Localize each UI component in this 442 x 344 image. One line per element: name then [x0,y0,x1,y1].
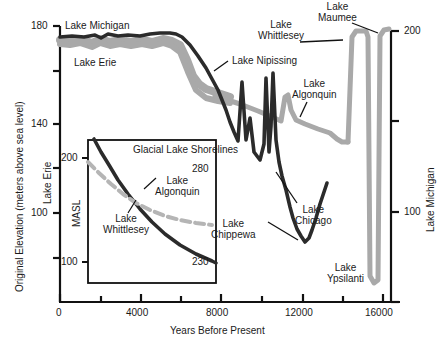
right-axis-tick-200: 200 [404,25,421,36]
left-axis-tick-180: 180 [31,20,48,31]
inset-corner-label-230: 230 [192,256,209,267]
x-axis-tick-16000: 16000 [365,307,393,318]
bottom-axis [59,294,400,302]
y-axis-title-right: Lake Michigan [425,168,436,232]
inset-y-axis-title: MASL [71,200,82,227]
x-axis-title: Years Before Present [170,325,265,336]
x-axis-tick-8000: 8000 [206,307,228,318]
x-axis-tick-4000: 4000 [126,307,148,318]
x-axis-tick-12000: 12000 [285,307,313,318]
inset-corner-label-280: 280 [192,163,209,174]
y-axis-title-left: Original Elevation (meters above sea lev… [14,101,25,292]
chart-canvas [0,0,442,344]
annotation-lake-whittlesey: Lake Whittlesey [258,19,304,41]
figure-glacial-lake-levels: 180 140 100 200 100 0 4000 8000 12000 16… [0,0,442,344]
x-axis-tick-0: 0 [56,307,62,318]
inset-tick-100: 100 [61,256,78,267]
left-axis-tick-100: 100 [31,207,48,218]
annotation-lake-maumee: Lake Maumee [318,1,357,23]
annotation-lake-nipissing: Lake Nipissing [232,55,297,66]
inset-tick-200: 200 [61,152,78,163]
annotation-lake-chicago: Lake Chicago [295,204,332,226]
annotation-lake-erie: Lake Erie [74,57,116,68]
annotation-lake-chippewa: Lake Chippewa [211,218,255,240]
left-axis-tick-140: 140 [31,118,48,129]
y-axis-subtitle-lake-erie: Lake Erie [42,162,53,204]
annotation-lake-michigan: Lake Michigan [65,20,129,31]
inset-title: Glacial Lake Shorelines [133,144,238,155]
annotation-lake-algonquin: Lake Algonquin [292,78,336,100]
inset-annotation-lake-whittlesey: Lake Whittlesey [103,213,149,235]
right-axis-tick-100: 100 [404,206,421,217]
right-axis [391,31,399,302]
left-axis [53,26,60,302]
annotation-lake-ypsilanti: Lake Ypsilanti [327,262,364,284]
inset-annotation-lake-algonquin: Lake Algonquin [155,175,199,197]
